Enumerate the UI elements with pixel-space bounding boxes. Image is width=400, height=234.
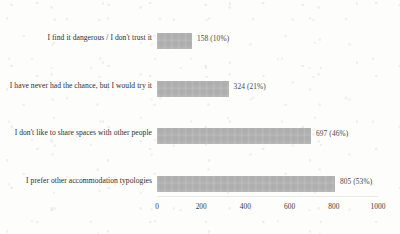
category-label: I prefer other accommodation typologies (2, 176, 152, 185)
x-axis-tick-label: 400 (240, 202, 251, 211)
bar-row: 158 (10%) (157, 33, 378, 49)
x-axis-line (157, 196, 378, 197)
plot-area: 158 (10%) 324 (21%) 697 (46%) 805 (53%) (157, 18, 378, 196)
x-axis-tick-label: 800 (328, 202, 339, 211)
bar-segment[interactable] (157, 33, 192, 49)
x-axis-tick-label: 600 (284, 202, 295, 211)
bar-value-label: 697 (46%) (316, 129, 348, 138)
x-axis-tick-label: 1000 (371, 202, 386, 211)
bar-row: 324 (21%) (157, 81, 378, 97)
bar-value-label: 805 (53%) (340, 177, 372, 186)
bar-value-label: 158 (10%) (197, 34, 229, 43)
bar-segment[interactable] (157, 176, 335, 192)
category-label: I find it dangerous / I don't trust it (2, 33, 152, 42)
bar-value-label: 324 (21%) (234, 82, 266, 91)
x-axis-tick-label: 0 (155, 202, 159, 211)
bar-row: 805 (53%) (157, 176, 378, 192)
x-axis-tick-label: 200 (196, 202, 207, 211)
category-label: I have never had the chance, but I would… (2, 81, 152, 90)
bar-row: 697 (46%) (157, 128, 378, 144)
horizontal-bar-chart: I find it dangerous / I don't trust it I… (0, 0, 400, 234)
bar-segment[interactable] (157, 81, 229, 97)
bar-segment[interactable] (157, 128, 311, 144)
category-label: I don't like to share spaces with other … (2, 128, 152, 137)
